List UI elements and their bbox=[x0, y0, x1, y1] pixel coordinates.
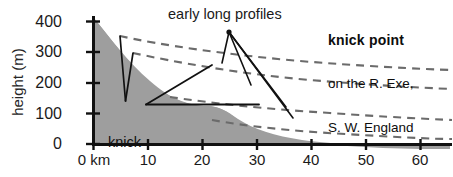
caption-title: knick point bbox=[328, 33, 414, 48]
y-tick-label-100: 100 bbox=[16, 105, 62, 122]
x-tick-label-20: 20 bbox=[182, 152, 222, 168]
caption-line-2: on the R. Exe, bbox=[328, 77, 414, 92]
y-tick-label-300: 300 bbox=[16, 43, 62, 60]
y-tick-label-400: 400 bbox=[16, 13, 62, 30]
y-tick-label-200: 200 bbox=[16, 74, 62, 91]
annotation-early-long-profiles: early long profiles bbox=[168, 7, 282, 23]
figure-knick-point: height (m) 400 300 200 100 0 0 km 10 20 … bbox=[0, 0, 453, 177]
early-profiles-leader-node bbox=[226, 29, 231, 34]
x-tick-label-40: 40 bbox=[291, 152, 331, 168]
x-tick-label-30: 30 bbox=[237, 152, 277, 168]
caption-line-3: S. W. England bbox=[328, 121, 414, 136]
annotation-knick-points: knick points bbox=[108, 104, 147, 177]
annotation-knick-points-line1: knick bbox=[108, 135, 147, 151]
y-tick-label-0: 0 bbox=[16, 135, 62, 152]
figure-caption: knick point on the R. Exe, S. W. England bbox=[328, 4, 414, 165]
